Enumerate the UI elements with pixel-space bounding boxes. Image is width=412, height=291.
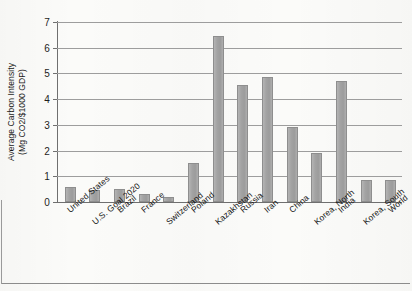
y-axis-title-line-1: Average Carbon Intensity [6, 63, 17, 161]
y-tick-label-7: 7 [44, 17, 50, 28]
y-tick-label-4: 4 [44, 94, 50, 105]
y-tick-mark-7 [53, 22, 57, 23]
y-tick-mark-6 [53, 48, 57, 49]
page-left-rule [1, 200, 2, 284]
bar-slot [231, 22, 256, 202]
bar-china[interactable] [287, 127, 298, 202]
plot-area: 76543210 [57, 22, 402, 202]
y-tick-label-2: 2 [44, 145, 50, 156]
bar-iran[interactable] [262, 77, 273, 202]
bar-korea-south[interactable] [361, 180, 372, 202]
bar-slot [206, 22, 231, 202]
bar-slot [132, 22, 157, 202]
y-tick-mark-3 [53, 125, 57, 126]
y-tick-mark-0 [53, 202, 57, 203]
bar-slot [58, 22, 83, 202]
y-tick-mark-2 [53, 151, 57, 152]
chart-figure: Average Carbon Intensity (Mg CO2/$1000 G… [0, 0, 412, 291]
bar-korea-north[interactable] [311, 153, 322, 202]
bar-series [58, 22, 402, 202]
y-tick-mark-1 [53, 176, 57, 177]
y-tick-label-3: 3 [44, 119, 50, 130]
bar-slot [354, 22, 379, 202]
y-tick-label-6: 6 [44, 42, 50, 53]
page-bottom-rule [2, 283, 410, 284]
bar-slot [157, 22, 182, 202]
bar-slot [255, 22, 280, 202]
y-tick-label-5: 5 [44, 68, 50, 79]
bar-slot [304, 22, 329, 202]
y-tick-label-1: 1 [44, 171, 50, 182]
bar-slot [181, 22, 206, 202]
bar-slot [280, 22, 305, 202]
y-tick-mark-4 [53, 99, 57, 100]
y-axis-title: Average Carbon Intensity (Mg CO2/$1000 G… [4, 22, 30, 202]
bar-kazakhstan[interactable] [213, 36, 224, 202]
y-axis-title-line-2: (Mg CO2/$1000 GDP) [17, 63, 28, 161]
bar-russia[interactable] [237, 85, 248, 202]
bar-slot [107, 22, 132, 202]
bar-slot [378, 22, 403, 202]
bar-india[interactable] [336, 81, 347, 202]
y-tick-mark-5 [53, 73, 57, 74]
y-tick-label-0: 0 [44, 197, 50, 208]
bar-slot [329, 22, 354, 202]
